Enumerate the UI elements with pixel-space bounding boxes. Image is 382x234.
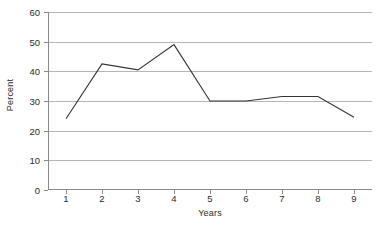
y-tick-label: 0 <box>35 185 40 196</box>
series-line-percent <box>66 45 354 119</box>
y-tick-label: 40 <box>29 66 40 77</box>
plot-area <box>48 12 372 190</box>
x-tick-label: 5 <box>207 193 212 204</box>
series-layer <box>48 12 372 190</box>
y-tick-label: 20 <box>29 125 40 136</box>
x-tick-label: 1 <box>63 193 68 204</box>
y-tick-mark <box>44 190 48 191</box>
y-axis-tick-labels: 0102030405060 <box>17 12 44 190</box>
x-tick-label: 6 <box>243 193 248 204</box>
x-tick-label: 4 <box>171 193 176 204</box>
y-tick-label: 30 <box>29 96 40 107</box>
x-tick-label: 3 <box>135 193 140 204</box>
x-axis-title: Years <box>48 208 372 218</box>
x-axis-title-label: Years <box>198 208 222 218</box>
x-tick-label: 9 <box>351 193 356 204</box>
x-tick-label: 2 <box>99 193 104 204</box>
y-tick-label: 50 <box>29 36 40 47</box>
y-axis-title-label: Percent <box>5 79 15 111</box>
x-axis-tick-labels: 123456789 <box>48 193 372 207</box>
x-tick-label: 7 <box>279 193 284 204</box>
x-tick-label: 8 <box>315 193 320 204</box>
line-chart: Percent 0102030405060 123456789 Years <box>0 0 382 234</box>
y-tick-label: 10 <box>29 155 40 166</box>
y-tick-label: 60 <box>29 7 40 18</box>
